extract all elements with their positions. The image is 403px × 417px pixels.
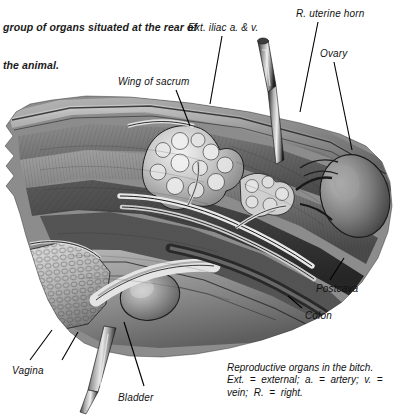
leader-vagina-1: [30, 330, 52, 360]
caption-line-3: vein; R. = right.: [227, 387, 399, 399]
caption-line-1: Reproductive organs in the bitch.: [227, 362, 399, 374]
caption-line-2: Ext. = external; a. = artery; v. =: [227, 374, 399, 386]
leader-r-uterine-horn: [300, 22, 318, 112]
label-r-uterine-horn: R. uterine horn: [296, 8, 364, 19]
intro-line-2: the animal.: [3, 59, 197, 72]
label-colon: Colon: [305, 310, 332, 321]
label-ovary: Ovary: [320, 48, 347, 59]
leader-ext-iliac: [210, 36, 222, 104]
figure-page: group of organs situated at the rear of …: [0, 0, 403, 417]
dissection-field: [0, 90, 403, 370]
label-bladder: Bladder: [118, 392, 154, 403]
label-vagina: Vagina: [12, 365, 44, 376]
label-ext-iliac: Ext. iliac a. & v.: [188, 22, 258, 33]
figure-caption: Reproductive organs in the bitch. Ext. =…: [227, 362, 399, 399]
leader-vagina-2: [62, 332, 78, 360]
label-wing-of-sacrum: Wing of sacrum: [118, 76, 189, 87]
label-postcava: Postcava: [316, 283, 358, 294]
intro-line-1: group of organs situated at the rear of: [3, 21, 197, 34]
